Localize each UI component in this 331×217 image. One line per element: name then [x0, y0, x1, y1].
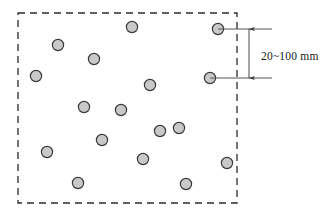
aggregate-particle — [115, 104, 126, 115]
aggregate-particle — [88, 53, 99, 64]
aggregate-particle — [173, 122, 184, 133]
aggregate-particle — [41, 146, 52, 157]
aggregate-particle — [72, 177, 83, 188]
figure-container: 20~100 mm — [0, 0, 331, 217]
aggregate-particle — [30, 70, 41, 81]
aggregate-spacing-figure: 20~100 mm — [0, 0, 331, 217]
aggregate-particle — [154, 125, 165, 136]
aggregate-particle — [52, 39, 63, 50]
aggregate-particles-group — [30, 21, 232, 189]
dashed-boundary-rectangle — [18, 13, 237, 203]
aggregate-particle — [144, 79, 155, 90]
aggregate-particle — [78, 101, 89, 112]
aggregate-particle — [137, 153, 148, 164]
aggregate-particle — [221, 157, 232, 168]
aggregate-particle — [96, 134, 107, 145]
spacing-dimension-group: 20~100 mm — [210, 29, 319, 78]
dimension-label: 20~100 mm — [261, 50, 319, 62]
aggregate-particle — [180, 178, 191, 189]
aggregate-particle — [126, 21, 137, 32]
